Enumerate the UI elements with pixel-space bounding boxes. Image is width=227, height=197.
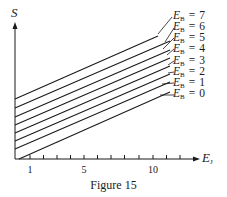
x-axis-label-sub: J (210, 158, 213, 166)
y-axis-label: S (11, 7, 18, 18)
tick-label-5: 5 (82, 164, 87, 175)
tick-label-10: 10 (148, 164, 158, 175)
legend-item-eb-0: EB=0 (173, 88, 205, 101)
leader-lines (158, 17, 174, 95)
y-axis-arrow-icon (13, 22, 18, 29)
line-eb-3 (15, 66, 170, 133)
legend-eq: = (189, 42, 196, 54)
series-lines (15, 36, 170, 159)
x-ticks (30, 155, 180, 159)
x-axis-label: EJ (202, 152, 213, 166)
x-axis-label-var: E (202, 150, 210, 165)
line-eb-0 (19, 92, 170, 159)
legend-val: 4 (199, 42, 205, 54)
tick-label-1: 1 (28, 164, 33, 175)
legend-eq: = (189, 87, 196, 99)
x-axis-arrow-icon (193, 157, 200, 162)
legend-sub: B (180, 93, 185, 101)
legend-var: E (173, 42, 180, 54)
figure-caption: Figure 15 (0, 178, 227, 193)
line-eb-7 (15, 36, 158, 99)
line-eb-6 (15, 41, 170, 108)
legend-val: 0 (199, 87, 205, 99)
legend-var: E (173, 87, 180, 99)
